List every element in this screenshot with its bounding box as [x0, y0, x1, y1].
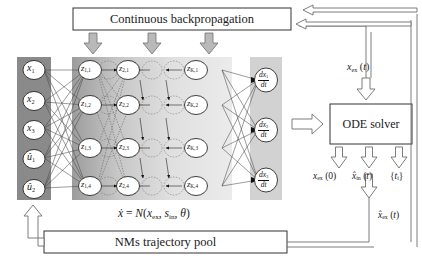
node-label-u2: û2	[27, 182, 35, 193]
signal-label-xex-hat-t: x̂ex (t)	[378, 211, 399, 221]
pool-to-input-feedback	[24, 205, 44, 246]
node-label-z14: z1,4	[81, 180, 91, 190]
node-label-z13: z1,3	[81, 142, 91, 152]
left-arrow-second	[296, 19, 411, 29]
node-label-dx3dt: dx3dt	[258, 171, 269, 188]
top-left-arrows	[296, 5, 417, 29]
node-label-z23: z2,3	[119, 142, 129, 152]
node-label-x3: x3	[27, 123, 35, 134]
signal-label-xex-t: xex (t)	[347, 62, 369, 73]
node-label-zK4: zK,4	[187, 180, 198, 190]
node-label-u1: û1	[27, 152, 35, 163]
up-arrow-ti	[391, 147, 407, 168]
down-arrow-3	[200, 33, 218, 54]
network-equation: ẋ = N(xex, sin, θ)	[118, 208, 190, 221]
node-label-dx2dt: dx2dt	[258, 121, 269, 138]
node-label-z12: z1,2	[81, 99, 91, 109]
signal-label-t-set: {ti}	[390, 172, 403, 182]
ode-solver-label: ODE solver	[330, 104, 412, 144]
up-arrow-xex0	[331, 147, 347, 168]
down-arrow-1	[84, 33, 102, 54]
signal-label-xex-0: xex (0)	[313, 172, 336, 182]
node-label-z21: z2,1	[119, 64, 129, 74]
node-label-zK1: zK,1	[187, 64, 198, 74]
figure-root: Continuous backpropagation NMs trajector…	[0, 0, 422, 262]
left-arrow-top	[303, 5, 417, 15]
backprop-box-label: Continuous backpropagation	[73, 8, 291, 30]
node-label-dx1dt: dx1dt	[258, 71, 269, 88]
output-to-solver-arrow	[292, 114, 323, 134]
node-label-x2: x2	[27, 94, 35, 105]
up-arrow-xin	[361, 147, 377, 168]
node-label-zK2: zK,2	[187, 99, 198, 109]
node-label-z24: z2,4	[119, 180, 129, 190]
node-label-x1: x1	[27, 63, 35, 74]
node-label-z11: z1,1	[81, 64, 91, 74]
signal-label-xin-hat-t: x̂in (t)	[352, 172, 372, 182]
down-arrow-2	[143, 33, 161, 54]
pool-to-xexhat-path	[287, 198, 374, 247]
pool-box-label: NMs trajectory pool	[44, 231, 287, 253]
node-label-zK3: zK,3	[187, 142, 198, 152]
solver-output-up-arrow	[357, 78, 375, 100]
solver-input-up-arrows	[331, 147, 407, 168]
node-label-z22: z2,2	[119, 99, 129, 109]
backprop-down-arrows	[84, 33, 218, 54]
